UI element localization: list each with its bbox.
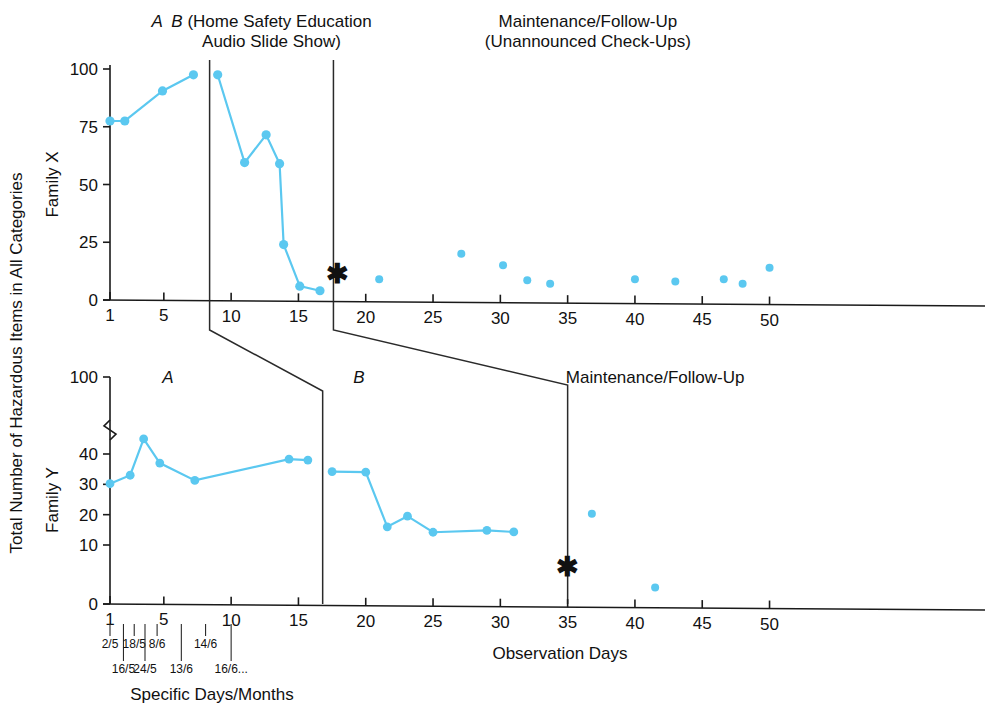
bottom-data-point [285,455,294,464]
top-phase-label-maintenance-line2: (Unannounced Check-Ups) [485,32,691,51]
bottom-series-line [332,472,514,533]
top-x-tick-label: 10 [222,307,241,326]
bottom-x-tick-label: 35 [558,613,577,632]
bottom-x-tick-label: 30 [491,613,510,632]
bottom-data-point [139,435,148,444]
top-data-point [523,276,531,284]
phase-connector-a-to-b [210,301,323,604]
top-data-point [105,116,114,125]
bottom-series-line [110,439,308,484]
bottom-data-point [106,479,115,488]
bottom-x-tick-label: 40 [625,614,644,633]
top-data-point [158,86,167,95]
bottom-panel-ylabel: Family Y [43,467,62,533]
top-data-point [457,250,465,258]
bottom-data-point [190,476,199,485]
top-phase-label-maintenance-line1: Maintenance/Follow-Up [499,12,678,31]
phase-connector-b-to-maintenance [333,302,567,604]
bottom-y-tick-label: 10 [79,536,98,555]
top-data-point [671,278,679,286]
bottom-data-point [429,528,438,537]
top-series-line [218,75,320,291]
bottom-x-tick-label: 5 [159,610,168,629]
top-data-point [720,275,728,283]
bottom-x-tick-label: 25 [424,612,443,631]
top-data-point [739,280,747,288]
date-tick-label: 14/6 [194,637,218,651]
bottom-x-tick-label: 20 [356,612,375,631]
figure-canvas: 025507510015101520253035404550AB (Home S… [0,0,993,726]
bottom-y-tick-label: 100 [70,368,98,387]
bottom-y-tick-label: 20 [79,506,98,525]
bottom-x-tick-label: 15 [289,611,308,630]
top-series-line [110,75,193,121]
bottom-phase-label-b: B [353,368,364,387]
date-tick-label: 24/5 [133,662,157,676]
top-data-point [275,159,284,168]
date-tick-label: 16/5 [112,662,136,676]
date-tick-label: 18/5 [123,637,147,651]
top-data-point [240,158,249,167]
bottom-phase-label-maintenance: Maintenance/Follow-Up [566,368,745,387]
top-y-tick-label: 100 [70,60,98,79]
top-x-tick-label: 5 [159,306,168,325]
dual-panel-line-chart: 025507510015101520253035404550AB (Home S… [0,0,993,726]
top-data-point [262,130,271,139]
top-x-tick-label: 25 [424,308,443,327]
bottom-y-tick-label: 40 [79,445,98,464]
top-phase-label-a: A [150,12,162,31]
top-y-tick-label: 25 [79,233,98,252]
top-data-point [766,264,774,272]
bottom-phase-label-a: A [161,368,173,387]
bottom-star-annotation: ✱ [556,552,579,582]
bottom-x-tick-label: 50 [760,615,779,634]
top-data-point [213,70,222,79]
bottom-data-point [155,459,164,468]
top-data-point [120,116,129,125]
date-tick-label: 2/5 [102,637,119,651]
top-data-point [279,240,288,249]
bottom-data-point [403,512,412,521]
bottom-data-point [509,528,518,537]
bottom-data-point [383,522,392,531]
date-tick-label: 13/6 [170,662,194,676]
top-data-point [315,286,324,295]
top-data-point [189,70,198,79]
bottom-data-point [328,467,337,476]
bottom-data-point [361,468,370,477]
bottom-x-axis [103,604,985,610]
secondary-x-axis-title: Specific Days/Months [130,685,293,704]
top-x-tick-label: 1 [105,306,114,325]
top-x-tick-label: 15 [289,307,308,326]
top-y-tick-label: 50 [79,176,98,195]
x-axis-title: Observation Days [492,644,627,663]
top-data-point [375,275,383,283]
top-panel-ylabel: Family X [43,151,62,217]
top-data-point [499,261,507,269]
top-y-tick-label: 0 [89,291,98,310]
bottom-x-tick-label: 45 [693,614,712,633]
top-data-point [631,275,639,283]
top-x-tick-label: 50 [760,311,779,330]
top-data-point [295,282,304,291]
bottom-data-point [303,456,312,465]
top-x-tick-label: 35 [558,309,577,328]
top-phase-label-b-line2: Audio Slide Show) [202,32,341,51]
bottom-data-point [588,510,596,518]
y-axis-title: Total Number of Hazardous Items in All C… [7,173,26,554]
bottom-y-tick-label: 0 [89,595,98,614]
bottom-y-tick-label: 30 [79,475,98,494]
top-x-tick-label: 30 [491,309,510,328]
top-star-annotation: ✱ [326,259,349,289]
bottom-data-point [651,583,659,591]
top-x-tick-label: 40 [625,310,644,329]
top-y-tick-label: 75 [79,118,98,137]
top-phase-label-b-line1: B (Home Safety Education [171,12,371,31]
date-tick-label: 8/6 [149,637,166,651]
bottom-data-point [126,471,135,480]
top-x-tick-label: 20 [356,308,375,327]
top-x-tick-label: 45 [693,310,712,329]
date-tick-label: 16/6... [214,662,247,676]
bottom-data-point [482,526,491,535]
top-data-point [546,280,554,288]
